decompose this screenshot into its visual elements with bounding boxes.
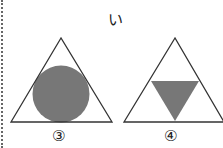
figure-label-3: ③ (52, 127, 65, 145)
figure-label-4: ④ (164, 127, 177, 145)
filled-circle-shape (33, 66, 90, 123)
figure-3 (11, 38, 112, 123)
inverted-triangle-shape (151, 81, 199, 121)
figures-canvas (0, 0, 223, 148)
figure-4 (124, 38, 223, 122)
